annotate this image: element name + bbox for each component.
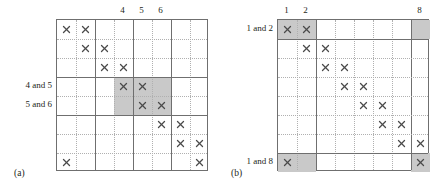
row-label: 5 and 6 — [26, 99, 53, 109]
grid-hline-minor — [278, 115, 428, 116]
grid-vline-minor — [114, 20, 115, 170]
grid-vline-major — [95, 20, 96, 170]
x-mark-icon — [411, 134, 430, 153]
grid-cell-shaded[interactable] — [278, 20, 297, 39]
grid-a[interactable] — [56, 19, 208, 171]
grid-cell-shaded[interactable] — [133, 96, 152, 115]
grid-vline-major — [411, 20, 412, 170]
column-label: 6 — [151, 5, 170, 15]
x-mark-icon — [354, 96, 373, 115]
grid-hline-minor — [57, 58, 207, 59]
column-label: 2 — [296, 5, 315, 15]
grid-hline-minor — [57, 134, 207, 135]
x-mark-icon — [171, 115, 190, 134]
grid-vline-major — [171, 20, 172, 170]
grid-hline-major — [278, 39, 428, 40]
grid-cell-shaded[interactable] — [297, 20, 316, 39]
grid-vline-minor — [190, 20, 191, 170]
grid-hline-minor — [278, 58, 428, 59]
x-mark-icon — [95, 39, 114, 58]
figure-two-panel-grids: (a) 4564 and 55 and 6 (b) 1281 and 21 an… — [0, 0, 442, 189]
grid-cell-shaded[interactable] — [133, 77, 152, 96]
grid-vline-major — [316, 20, 317, 170]
panel-b: (b) 1281 and 21 and 8 — [221, 0, 442, 189]
grid-b[interactable] — [277, 19, 429, 171]
x-mark-icon — [335, 58, 354, 77]
x-mark-icon — [152, 115, 171, 134]
grid-vline-minor — [76, 20, 77, 170]
x-mark-icon — [392, 134, 411, 153]
column-label: 8 — [410, 5, 429, 15]
panel-caption-b: (b) — [231, 168, 242, 178]
grid-cell-shaded[interactable] — [114, 77, 133, 96]
grid-cell-shaded[interactable] — [411, 20, 430, 39]
x-mark-icon — [57, 153, 76, 172]
x-mark-icon — [171, 134, 190, 153]
x-mark-icon — [190, 134, 209, 153]
grid-hline-minor — [57, 96, 207, 97]
x-mark-icon — [297, 39, 316, 58]
grid-cell-shaded[interactable] — [297, 153, 316, 172]
grid-vline-minor — [335, 20, 336, 170]
grid-cell-shaded[interactable] — [152, 96, 171, 115]
grid-cell-shaded[interactable] — [278, 153, 297, 172]
grid-vline-minor — [152, 20, 153, 170]
x-mark-icon — [354, 77, 373, 96]
grid-vline-minor — [297, 20, 298, 170]
grid-hline-minor — [278, 96, 428, 97]
column-label: 5 — [132, 5, 151, 15]
grid-hline-minor — [278, 134, 428, 135]
column-label: 1 — [277, 5, 296, 15]
column-label: 4 — [113, 5, 132, 15]
x-mark-icon — [335, 77, 354, 96]
row-label: 1 and 2 — [247, 23, 274, 33]
grid-hline-major — [57, 77, 207, 78]
grid-vline-minor — [373, 20, 374, 170]
grid-cell-shaded[interactable] — [152, 77, 171, 96]
grid-cell-shaded[interactable] — [411, 153, 430, 172]
panel-caption-a: (a) — [14, 168, 25, 178]
x-mark-icon — [190, 153, 209, 172]
row-label: 4 and 5 — [26, 80, 53, 90]
grid-hline-minor — [278, 77, 428, 78]
grid-vline-minor — [354, 20, 355, 170]
grid-hline-minor — [57, 153, 207, 154]
grid-container-b — [277, 19, 429, 171]
x-mark-icon — [76, 20, 95, 39]
x-mark-icon — [57, 20, 76, 39]
grid-vline-major — [133, 20, 134, 170]
grid-vline-minor — [392, 20, 393, 170]
x-mark-icon — [373, 96, 392, 115]
x-mark-icon — [95, 58, 114, 77]
x-mark-icon — [114, 58, 133, 77]
x-mark-icon — [373, 115, 392, 134]
x-mark-icon — [316, 39, 335, 58]
x-mark-icon — [316, 58, 335, 77]
grid-cell-shaded[interactable] — [114, 96, 133, 115]
grid-hline-major — [278, 153, 428, 154]
x-mark-icon — [76, 39, 95, 58]
grid-hline-minor — [57, 39, 207, 40]
panel-a: (a) 4564 and 55 and 6 — [0, 0, 221, 189]
x-mark-icon — [392, 115, 411, 134]
grid-hline-major — [57, 115, 207, 116]
grid-container-a — [56, 19, 208, 171]
row-label: 1 and 8 — [247, 156, 274, 166]
